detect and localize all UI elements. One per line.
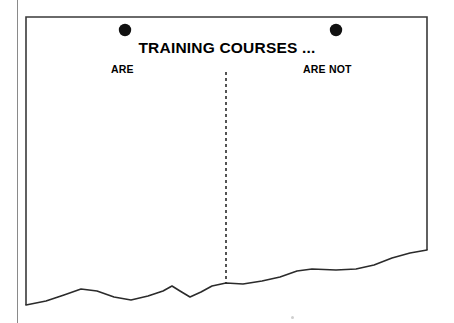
label-are-not: ARE NOT bbox=[303, 63, 352, 75]
page-title: TRAINING COURSES ... bbox=[138, 40, 315, 56]
scan-speck bbox=[291, 316, 294, 319]
chart-frame bbox=[26, 17, 427, 305]
right-bullet-icon bbox=[330, 24, 342, 36]
left-bullet-icon bbox=[119, 24, 131, 36]
figure-page: TRAINING COURSES ... ARE ARE NOT bbox=[0, 0, 454, 323]
label-are: ARE bbox=[111, 63, 134, 75]
